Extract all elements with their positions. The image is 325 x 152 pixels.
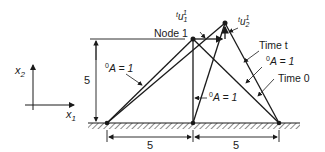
- area-right-label: 0A = 1: [266, 55, 294, 67]
- coordinate-axes: x2 x1: [14, 64, 76, 123]
- left-span-label: 5: [147, 139, 153, 151]
- node-left: [105, 121, 110, 126]
- area-mid-label: 0A = 1: [209, 91, 237, 103]
- height-dim-label: 5: [84, 74, 90, 86]
- node-1-displaced: [223, 21, 228, 26]
- svg-text:x1: x1: [65, 108, 76, 123]
- node-mid: [191, 121, 196, 126]
- time-t-label: Time t: [259, 39, 288, 51]
- node-right: [277, 121, 282, 126]
- truss-diagram: x2 x1 5: [0, 0, 325, 152]
- span-dimensions: [107, 130, 279, 142]
- u2-label: tu21: [238, 14, 250, 28]
- area-left-label: 0A = 1: [105, 62, 133, 74]
- right-span-label: 5: [233, 139, 239, 151]
- time-0-label: Time 0: [278, 72, 310, 84]
- node-1-label: Node 1: [154, 27, 188, 39]
- node-1: [191, 37, 196, 42]
- svg-text:x2: x2: [14, 64, 26, 79]
- u1-label: tu11: [176, 9, 188, 23]
- truss-time-0: [107, 39, 279, 123]
- height-dimension: [90, 39, 185, 121]
